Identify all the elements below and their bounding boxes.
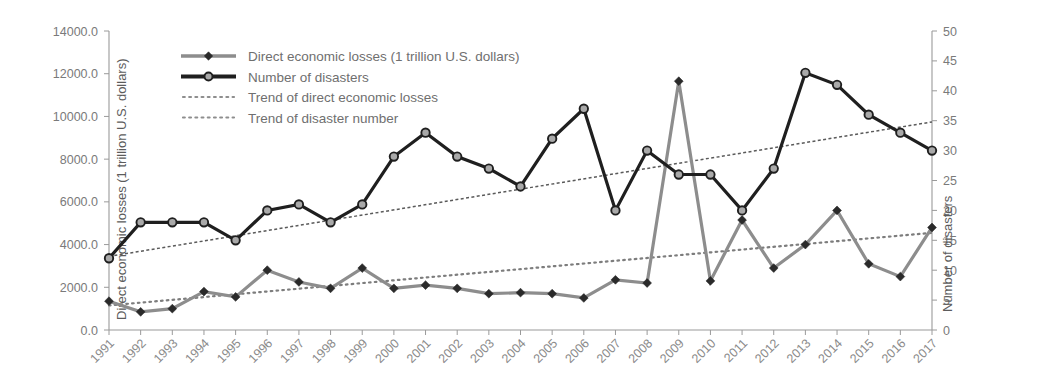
x-tick-label: 2002 [436,336,466,366]
x-tick-label: 1997 [277,336,307,366]
left-tick-label: 2000.0 [60,281,98,295]
legend-label: Number of disasters [248,70,369,85]
right-tick-label: 50 [943,25,957,39]
x-tick-label: 1993 [151,336,181,366]
data-point-marker-disasters [200,218,208,226]
data-point-marker-losses [421,281,430,290]
left-tick-label: 0.0 [81,324,98,338]
x-tick-label: 1999 [341,336,371,366]
data-point-marker-disasters [358,200,366,208]
x-tick-label: 2014 [816,336,846,366]
data-point-marker-disasters [833,81,841,89]
data-point-marker-disasters [326,218,334,226]
data-point-marker-disasters [295,200,303,208]
data-point-marker-disasters [263,206,271,214]
series-line-number-of-disasters [109,73,932,258]
data-point-marker-losses [136,307,145,316]
left-tick-label: 10000.0 [53,110,98,124]
left-axis-tick-labels: 0.02000.04000.06000.08000.010000.012000.… [53,25,98,338]
legend-item: Direct economic losses (1 trillion U.S. … [181,49,520,64]
series-line-direct-economic-losses [109,81,932,312]
chart-canvas: 0.02000.04000.06000.08000.010000.012000.… [0,0,1037,384]
x-tick-label: 2006 [562,336,592,366]
data-point-marker-losses [643,279,652,288]
right-tick-label: 35 [943,114,957,128]
x-tick-label: 1992 [119,336,149,366]
right-tick-label: 40 [943,84,957,98]
x-tick-label: 2010 [689,336,719,366]
legend-label: Direct economic losses (1 trillion U.S. … [248,49,520,64]
y-axis-title: Direct economic losses (1 trillion U.S. … [114,58,129,320]
data-point-marker-disasters [738,206,746,214]
series-markers-number-of-disasters [105,69,936,263]
left-tick-label: 6000.0 [60,195,98,209]
left-tick-label: 4000.0 [60,238,98,252]
x-tick-label: 2016 [879,336,909,366]
chart-legend: Direct economic losses (1 trillion U.S. … [181,49,520,126]
x-tick-label: 2003 [467,336,497,366]
right-tick-label: 0 [943,324,950,338]
x-axis-ticks [109,330,932,335]
x-tick-label: 2012 [752,336,782,366]
data-point-marker-disasters [770,164,778,172]
data-point-marker-disasters [643,146,651,154]
left-axis-ticks [104,31,109,330]
data-point-marker-disasters [136,218,144,226]
data-point-marker-losses [548,289,557,298]
data-point-marker-disasters [548,134,556,142]
left-tick-label: 8000.0 [60,153,98,167]
x-tick-label: 1995 [214,336,244,366]
x-tick-label: 2007 [594,336,624,366]
x-tick-label: 1991 [88,336,118,366]
x-tick-label: 2009 [657,336,687,366]
right-axis-ticks [932,31,937,330]
y2-axis-title: Number of disasters [940,195,955,312]
legend-item: Number of disasters [181,70,369,85]
chart-container: 0.02000.04000.06000.08000.010000.012000.… [0,0,1037,384]
data-point-marker-disasters [928,146,936,154]
data-point-marker-disasters [485,164,493,172]
data-point-marker-disasters [516,182,524,190]
legend-marker-icon [204,52,212,60]
data-point-marker-disasters [453,152,461,160]
data-point-marker-disasters [801,69,809,77]
x-tick-label: 2011 [721,336,750,365]
legend-item: Trend of direct economic losses [183,90,438,105]
data-point-marker-disasters [864,111,872,119]
data-point-marker-disasters [675,170,683,178]
x-tick-label: 2004 [499,336,529,366]
data-point-marker-disasters [390,152,398,160]
x-tick-label: 1996 [246,336,276,366]
legend-item: Trend of disaster number [183,111,399,126]
right-tick-label: 25 [943,174,957,188]
legend-marker-icon [205,73,213,81]
x-tick-label: 2013 [784,336,814,366]
series-markers-direct-economic-losses [105,77,937,316]
data-point-marker-disasters [580,105,588,113]
data-point-marker-losses [105,297,114,306]
data-point-marker-losses [674,77,683,86]
left-tick-label: 14000.0 [53,25,98,39]
data-point-marker-losses [295,278,304,287]
data-point-marker-losses [484,289,493,298]
x-tick-label: 1998 [309,336,339,366]
data-point-marker-disasters [231,236,239,244]
data-point-marker-disasters [896,128,904,136]
right-tick-label: 30 [943,144,957,158]
x-tick-label: 2005 [531,336,561,366]
x-tick-label: 2001 [404,336,434,366]
legend-label: Trend of direct economic losses [248,90,438,105]
data-point-marker-losses [453,284,462,293]
series-group [105,69,937,317]
data-point-marker-disasters [706,170,714,178]
data-point-marker-disasters [105,254,113,262]
left-tick-label: 12000.0 [53,67,98,81]
x-tick-label: 2000 [372,336,402,366]
data-point-marker-disasters [168,218,176,226]
right-tick-label: 45 [943,54,957,68]
x-tick-label: 1994 [183,336,213,366]
legend-label: Trend of disaster number [248,111,399,126]
data-point-marker-losses [516,288,525,297]
x-tick-label: 2015 [847,336,877,366]
x-tick-label: 2008 [626,336,656,366]
